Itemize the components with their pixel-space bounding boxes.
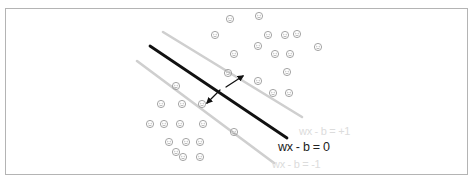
- smiley-point-icon: [178, 100, 185, 107]
- positive-margin-line: [163, 32, 302, 117]
- smiley-point-icon: [165, 138, 172, 145]
- smiley-point-icon: [230, 50, 237, 57]
- smiley-point-icon: [182, 138, 189, 145]
- smiley-point-icon: [264, 31, 271, 38]
- negative-margin-line: [137, 61, 274, 163]
- smiley-point-icon: [314, 43, 321, 50]
- smiley-point-icon: [198, 100, 205, 107]
- smiley-point-icon: [176, 120, 183, 127]
- smiley-point-icon: [285, 89, 292, 96]
- smiley-point-icon: [283, 68, 290, 75]
- hyperplane-label: wx - b = 0: [278, 140, 330, 154]
- negative-margin-label: wx - b = -1: [272, 158, 320, 170]
- smiley-point-icon: [172, 148, 179, 155]
- smiley-point-icon: [286, 50, 293, 57]
- smiley-point-icon: [293, 30, 300, 37]
- svm-diagram: [0, 0, 475, 180]
- smiley-point-icon: [226, 15, 233, 22]
- margin-arrow: [207, 90, 220, 103]
- smiley-point-icon: [255, 12, 262, 19]
- smiley-point-icon: [199, 120, 206, 127]
- smiley-point-icon: [254, 77, 261, 84]
- smiley-point-icon: [160, 120, 167, 127]
- smiley-point-icon: [146, 120, 153, 127]
- smiley-point-icon: [271, 50, 278, 57]
- smiley-point-icon: [179, 153, 186, 160]
- margin-arrow: [226, 76, 243, 87]
- smiley-point-icon: [269, 89, 276, 96]
- smiley-point-icon: [211, 31, 218, 38]
- smiley-point-icon: [196, 138, 203, 145]
- smiley-point-icon: [281, 31, 288, 38]
- smiley-point-icon: [157, 100, 164, 107]
- smiley-point-icon: [196, 153, 203, 160]
- smiley-point-icon: [254, 42, 261, 49]
- positive-margin-label: wx - b = +1: [299, 125, 350, 137]
